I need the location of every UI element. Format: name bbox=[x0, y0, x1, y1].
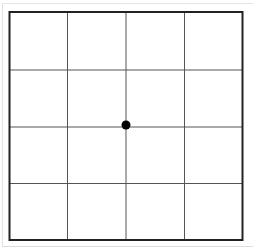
center-dot-marker bbox=[122, 121, 131, 130]
grid-diagram bbox=[0, 0, 253, 250]
